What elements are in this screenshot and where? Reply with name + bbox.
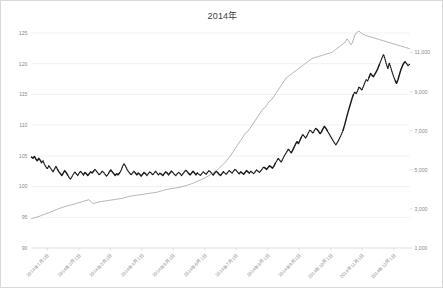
- series-line-rate: [239, 171, 249, 175]
- left-axis: 9095100105110115120125: [19, 30, 28, 251]
- series-line-rate: [369, 65, 379, 77]
- series-line-rate: [343, 95, 353, 130]
- series-line-rate: [249, 167, 265, 174]
- series-line-rate: [353, 77, 369, 95]
- x-axis-tick-label: 2014年2月1日: [56, 252, 82, 278]
- series-line-rate: [161, 171, 171, 175]
- series-line-rate: [109, 170, 119, 176]
- left-axis-tick-label: 90: [22, 245, 28, 251]
- series-line-rate: [94, 169, 110, 176]
- x-axis-tick-label: 2014年9月1日: [277, 252, 303, 278]
- x-axis-tick-label: 2014年4月1日: [119, 252, 145, 278]
- series-line-rate: [120, 164, 136, 175]
- x-axis: 2014年1月1日2014年2月1日2014年3月1日2014年4月1日2014…: [25, 248, 398, 280]
- x-axis-tick-label: 2014年7月1日: [214, 252, 240, 278]
- x-axis-tick-label: 2014年3月1日: [88, 252, 114, 278]
- x-axis-tick-label: 2014年12月1日: [369, 252, 397, 280]
- left-axis-tick-label: 120: [19, 61, 28, 67]
- x-axis-tick-label: 2014年6月1日: [182, 252, 208, 278]
- series-line-rate: [395, 62, 405, 84]
- series-line-rate: [32, 156, 42, 162]
- series-line-rate: [83, 171, 93, 175]
- series-line-rate: [68, 171, 84, 179]
- series-line-rate: [301, 128, 317, 138]
- series-line-rate: [42, 161, 58, 172]
- left-axis-tick-label: 110: [19, 122, 27, 128]
- left-axis-tick-label: 95: [22, 214, 28, 220]
- chart-container: 2014年 9095100105110115120125 1,0003,0005…: [0, 0, 443, 288]
- chart-plot-area: 9095100105110115120125 1,0003,0005,0007,…: [1, 1, 443, 288]
- x-axis-tick-label: 2014年5月1日: [151, 252, 177, 278]
- right-axis-tick-label: 9,000: [415, 89, 428, 95]
- right-axis-tick-label: 7,000: [415, 128, 428, 134]
- series-line-rate: [187, 171, 197, 175]
- series-line-rate: [327, 130, 343, 145]
- series-line-rate: [379, 55, 395, 81]
- right-axis: 1,0003,0005,0007,0009,00011,000: [410, 49, 431, 250]
- x-axis-tick-label: 2014年8月1日: [245, 252, 271, 278]
- left-axis-tick-label: 105: [19, 153, 28, 159]
- gridlines: [32, 33, 410, 248]
- right-axis-tick-label: 5,000: [415, 167, 428, 173]
- right-axis-tick-label: 1,000: [415, 245, 428, 251]
- x-axis-tick-label: 2014年1月1日: [25, 252, 51, 278]
- left-axis-tick-label: 100: [19, 183, 28, 189]
- right-axis-tick-label: 3,000: [415, 206, 428, 212]
- series-line-rate: [265, 163, 275, 169]
- left-axis-tick-label: 115: [19, 91, 27, 97]
- x-axis-tick-label: 2014年10月1日: [306, 252, 334, 280]
- series-line-rate: [57, 169, 67, 175]
- series-line-rate: [135, 172, 145, 176]
- left-axis-tick-label: 125: [19, 30, 28, 36]
- series-line-rate: [145, 171, 161, 175]
- series-line-rate: [275, 149, 291, 163]
- series-line-rate: [317, 126, 327, 133]
- x-axis-tick-label: 2014年11月1日: [338, 252, 366, 280]
- right-axis-tick-label: 11,000: [415, 49, 431, 55]
- series-line-rate: [171, 170, 187, 176]
- series-line-rate: [291, 137, 301, 152]
- series-line-rate: [223, 169, 239, 174]
